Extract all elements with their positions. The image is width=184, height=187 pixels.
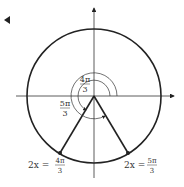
- svg-text:5π: 5π: [60, 99, 70, 108]
- svg-text:4π: 4π: [55, 157, 64, 165]
- svg-text:3: 3: [82, 85, 87, 94]
- left-arrow-icon: [4, 16, 10, 24]
- label-point-4pi-3: 2x = 4π 3: [28, 157, 65, 175]
- svg-text:2x =: 2x =: [124, 160, 145, 170]
- svg-text:3: 3: [62, 109, 67, 118]
- svg-text:3: 3: [58, 167, 62, 175]
- svg-text:5π: 5π: [147, 157, 156, 165]
- label-5pi-3-angle: 5π 3: [60, 99, 70, 118]
- label-4pi-3-angle: 4π 3: [80, 75, 90, 94]
- point-4pi-3: [58, 151, 62, 155]
- svg-text:4π: 4π: [80, 75, 90, 84]
- unit-circle-diagram: 4π 3 5π 3 2x = 4π 3 2x = 5π 3: [0, 0, 184, 187]
- label-point-5pi-3: 2x = 5π 3: [124, 157, 157, 175]
- svg-text:2x =: 2x =: [28, 160, 49, 170]
- svg-text:3: 3: [150, 167, 154, 175]
- point-5pi-3: [126, 151, 130, 155]
- radius-5pi-3: [94, 96, 128, 153]
